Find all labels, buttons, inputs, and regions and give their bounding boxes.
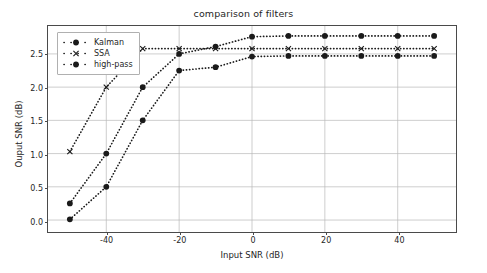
- y-axis-tick-label: 2.5: [30, 50, 43, 59]
- x-axis-tick-label: -40: [100, 236, 113, 245]
- legend-item-ssa[interactable]: SSA: [63, 48, 133, 59]
- y-axis-tick-label: 0.0: [30, 217, 43, 226]
- x-axis-tick-mark: [399, 232, 400, 235]
- chart-legend: Kalman SSA high-pass: [57, 32, 140, 75]
- y-axis-tick-mark: [45, 222, 48, 223]
- x-axis-tick-mark: [180, 232, 181, 235]
- legend-item-kalman[interactable]: Kalman: [63, 37, 133, 48]
- y-axis-tick-label: 0.5: [30, 184, 43, 193]
- legend-marker-circle-icon: [63, 38, 89, 47]
- legend-label: high-pass: [94, 60, 133, 69]
- x-axis-tick-label: 20: [321, 236, 331, 245]
- y-axis-tick-mark: [45, 88, 48, 89]
- x-axis-label: Input SNR (dB): [47, 250, 457, 260]
- y-axis-tick-label: 2.0: [30, 83, 43, 92]
- chart-title: comparison of filters: [0, 8, 487, 19]
- y-axis-label: Ouput SNR (dB): [14, 79, 24, 189]
- legend-label: Kalman: [94, 38, 124, 47]
- y-axis-tick-mark: [45, 188, 48, 189]
- x-axis-tick-label: 40: [394, 236, 404, 245]
- legend-marker-x-icon: [63, 49, 89, 58]
- plot-area: Kalman SSA high-pass 0.00.51.01.52.02.5-…: [47, 25, 457, 233]
- chart-figure: comparison of filters Kalman SSA high-pa…: [0, 0, 487, 273]
- y-axis-tick-mark: [45, 54, 48, 55]
- x-axis-tick-mark: [326, 232, 327, 235]
- x-axis-tick-mark: [107, 232, 108, 235]
- legend-label: SSA: [94, 49, 110, 58]
- legend-marker-circle-icon: [63, 60, 89, 69]
- y-axis-tick-label: 1.0: [30, 150, 43, 159]
- y-axis-tick-mark: [45, 155, 48, 156]
- x-axis-tick-label: 0: [250, 236, 255, 245]
- x-axis-tick-label: -20: [173, 236, 186, 245]
- x-axis-tick-mark: [253, 232, 254, 235]
- legend-item-high-pass[interactable]: high-pass: [63, 59, 133, 70]
- y-axis-tick-label: 1.5: [30, 117, 43, 126]
- y-axis-tick-mark: [45, 121, 48, 122]
